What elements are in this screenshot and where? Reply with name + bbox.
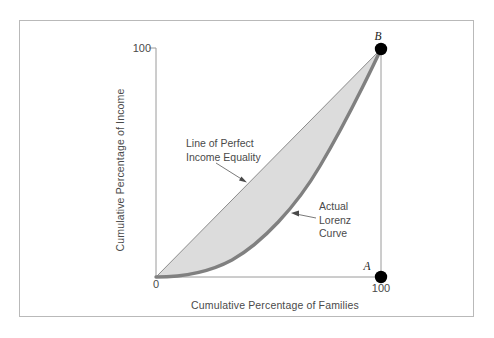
equality-leader-line <box>216 163 243 180</box>
point-label-b: B <box>374 30 381 42</box>
lorenz-arrowhead-icon <box>291 211 299 217</box>
x-axis-tick-label-100: 100 <box>372 282 390 294</box>
y-axis-title: Cumulative Percentage of Income <box>114 89 126 252</box>
annotation-lorenz-curve: Actual Lorenz Curve <box>319 200 351 241</box>
lorenz-curve-figure: Cumulative Percentage of Income Cumulati… <box>0 0 494 338</box>
plot-canvas <box>0 0 494 338</box>
x-axis-title: Cumulative Percentage of Families <box>191 299 359 311</box>
point-label-a: A <box>363 260 370 272</box>
y-axis-tick-label-100: 100 <box>133 42 151 54</box>
point-marker-b <box>375 43 387 55</box>
x-axis-tick-label-0: 0 <box>153 278 159 290</box>
annotation-equality-line: Line of Perfect Income Equality <box>186 137 261 164</box>
equality-arrowhead-icon <box>239 177 247 183</box>
